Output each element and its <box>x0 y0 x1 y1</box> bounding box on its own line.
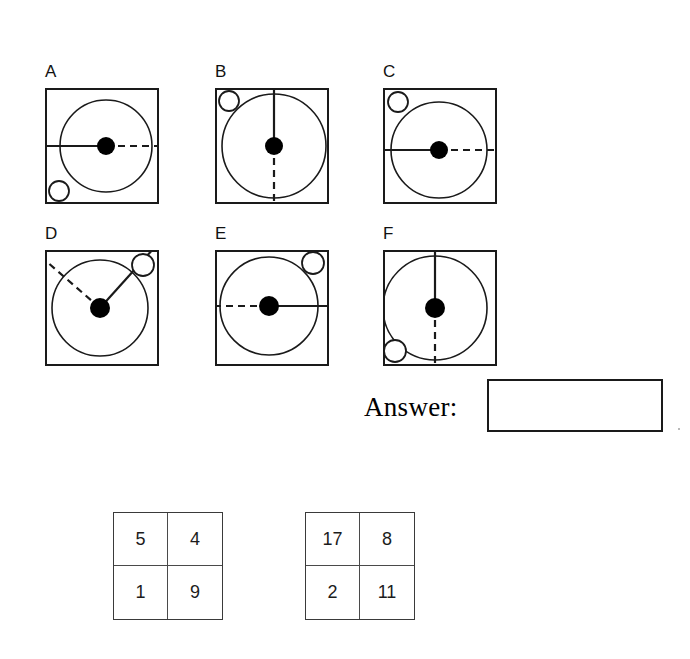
number-cell: 4 <box>168 513 222 566</box>
figure-panel-a[interactable]: A <box>45 88 159 204</box>
answer-input-box[interactable] <box>487 379 663 432</box>
center-dot <box>265 137 283 155</box>
corner-marker-circle-bottom-left <box>384 340 406 362</box>
answer-label: Answer: <box>364 392 458 423</box>
figure-panel-f[interactable]: F <box>383 250 497 366</box>
center-dot <box>97 137 115 155</box>
center-dot <box>425 298 445 318</box>
worksheet-page: ABCDEF Answer: 5419 178211 <box>0 0 690 659</box>
center-dot <box>430 141 448 159</box>
number-cell: 1 <box>114 566 168 619</box>
figure-panel-drawing-d <box>45 250 159 366</box>
number-grid-right: 178211 <box>305 512 415 620</box>
figure-panel-label-b: B <box>215 62 226 82</box>
figure-panel-b[interactable]: B <box>215 88 329 204</box>
figure-panel-drawing-f <box>383 250 497 366</box>
figure-panel-d[interactable]: D <box>45 250 159 366</box>
number-grid-left: 5419 <box>113 512 223 620</box>
number-cell: 11 <box>360 566 414 619</box>
figure-panel-label-c: C <box>383 62 395 82</box>
center-dot <box>259 296 279 316</box>
figure-panel-label-a: A <box>45 62 56 82</box>
figure-panel-drawing-a <box>45 88 159 204</box>
figure-panel-drawing-e <box>215 250 329 366</box>
page-speck <box>678 428 680 430</box>
corner-marker-circle-bottom-left <box>49 181 69 201</box>
figure-panel-label-f: F <box>383 224 393 244</box>
figure-panel-label-e: E <box>215 224 226 244</box>
figure-panel-c[interactable]: C <box>383 88 497 204</box>
page-header-fragment <box>455 0 685 10</box>
figure-panel-e[interactable]: E <box>215 250 329 366</box>
corner-marker-circle-top-right <box>302 252 324 274</box>
figure-panel-drawing-b <box>215 88 329 204</box>
corner-marker-circle-top-left <box>219 91 239 111</box>
corner-marker-circle-top-right <box>132 254 154 276</box>
number-cell: 17 <box>306 513 360 566</box>
number-cell: 5 <box>114 513 168 566</box>
number-cell: 8 <box>360 513 414 566</box>
corner-marker-circle-top-left <box>388 92 408 112</box>
number-cell: 9 <box>168 566 222 619</box>
figure-panel-label-d: D <box>45 224 57 244</box>
center-dot <box>90 298 110 318</box>
number-cell: 2 <box>306 566 360 619</box>
figure-panel-drawing-c <box>383 88 497 204</box>
